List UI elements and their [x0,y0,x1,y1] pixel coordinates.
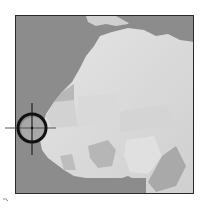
region-senegal [21,117,45,141]
corner-glyph-icon [2,198,10,206]
map-canvas [16,16,194,194]
map-frame[interactable] [15,15,194,194]
region-mali [78,94,120,126]
